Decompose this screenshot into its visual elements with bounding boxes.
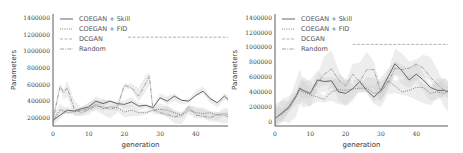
x-tick-label: 10 — [85, 130, 93, 137]
y-tick-label: 1400000 — [245, 14, 272, 21]
y-axis-label: Parameters — [10, 50, 18, 90]
y-axis-label: Parameters — [231, 50, 239, 90]
y-tick-label: 200000 — [249, 103, 272, 110]
y-tick-label: 1000000 — [245, 43, 272, 50]
y-tick-label: 1400000 — [23, 14, 50, 21]
y-tick-label: 400000 — [27, 97, 50, 104]
x-tick-label: 10 — [306, 130, 314, 137]
y-tick-label: 800000 — [27, 64, 50, 71]
y-tick-label: 200000 — [27, 114, 50, 121]
y-tick-label: 1000000 — [23, 47, 50, 54]
x-tick-label: 0 — [273, 130, 277, 137]
x-tick-label: 30 — [156, 130, 164, 137]
legend-label: DCGAN — [79, 35, 103, 43]
y-tick-label: 0 — [268, 118, 272, 125]
y-tick-label: 1200000 — [245, 29, 272, 36]
legend-label: Random — [301, 45, 328, 53]
x-tick-label: 40 — [192, 130, 200, 137]
y-tick-label: 800000 — [249, 58, 272, 65]
legend-label: COEGAN + FID — [79, 25, 127, 33]
x-axis-label: generation — [342, 141, 380, 149]
legend-label: Random — [79, 45, 106, 53]
y-tick-label: 400000 — [249, 88, 272, 95]
x-tick-label: 40 — [412, 130, 420, 137]
legend-label: DCGAN — [301, 35, 325, 43]
chart-panel-right: 0200000400000600000800000100000012000001… — [231, 14, 448, 149]
x-tick-label: 20 — [342, 130, 350, 137]
x-tick-label: 0 — [51, 130, 55, 137]
chart-canvas: 2000004000006000008000001000000120000014… — [0, 0, 463, 153]
legend-label: COEGAN + Skill — [301, 15, 352, 23]
y-tick-label: 1200000 — [23, 31, 50, 38]
x-tick-label: 30 — [377, 130, 385, 137]
legend: COEGAN + SkillCOEGAN + FIDDCGANRandom — [60, 15, 130, 53]
x-axis-label: generation — [121, 141, 159, 149]
x-tick-label: 20 — [121, 130, 129, 137]
legend: COEGAN + SkillCOEGAN + FIDDCGANRandom — [282, 15, 352, 53]
legend-label: COEGAN + FID — [301, 25, 349, 33]
legend-label: COEGAN + Skill — [79, 15, 130, 23]
chart-panel-left: 2000004000006000008000001000000120000014… — [10, 14, 228, 149]
y-tick-label: 600000 — [249, 73, 272, 80]
y-tick-label: 600000 — [27, 81, 50, 88]
